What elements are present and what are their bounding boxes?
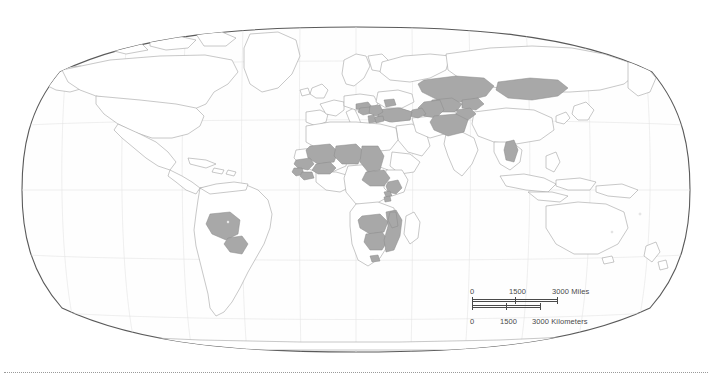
scale-miles-mid: 1500 — [509, 287, 526, 296]
scale-tick-miles-mid — [515, 297, 516, 304]
scale-km-labels: 0 1500 3000 Kilometers — [470, 317, 600, 328]
scale-miles-end: 3000 Miles — [552, 287, 589, 296]
scale-km-mid: 1500 — [500, 317, 517, 326]
scale-bars — [470, 298, 600, 314]
scale-tick-miles-end — [557, 297, 558, 304]
scale-bar: 0 1500 3000 Miles 0 1500 3000 Kilometers — [470, 287, 600, 321]
scale-tick-km-end — [540, 303, 541, 310]
scale-km-zero: 0 — [470, 317, 474, 326]
scale-miles-zero: 0 — [470, 287, 474, 296]
highlight-lesotho — [370, 255, 380, 262]
scale-km-end: 3000 Kilometers — [532, 317, 588, 326]
world-map-svg — [0, 0, 713, 380]
scale-tick-km-mid — [506, 303, 507, 310]
scale-tick-km-0 — [472, 303, 473, 310]
map-figure: 0 1500 3000 Miles 0 1500 3000 Kilometers — [0, 0, 713, 380]
scale-miles-labels: 0 1500 3000 Miles — [470, 287, 600, 298]
highlight-burundi — [384, 196, 391, 202]
footer-dotted-rule — [4, 372, 708, 374]
